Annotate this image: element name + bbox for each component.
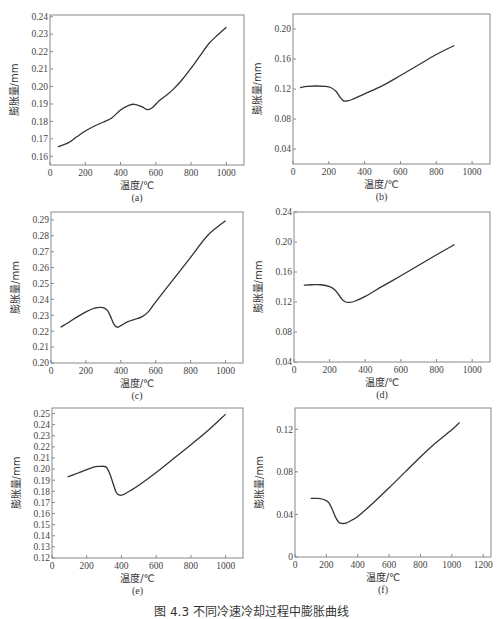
subfigure-label: (c): [131, 390, 142, 402]
x-tick-label: 800: [184, 561, 199, 571]
y-tick-label: 0.08: [276, 467, 293, 477]
dilatation-curve: [61, 221, 226, 328]
x-tick-label: 200: [80, 561, 95, 571]
dilatation-curve: [68, 414, 226, 495]
x-tick-label: 0: [49, 366, 54, 376]
y-tick-label: 0.20: [31, 82, 48, 92]
y-tick-label: 0.12: [33, 553, 50, 563]
y-tick-label: 0.16: [275, 267, 292, 277]
dilatation-curve: [304, 245, 455, 303]
y-tick-label: 0.23: [33, 431, 50, 441]
chart-c: 020040060080010000.200.210.220.230.240.2…: [9, 212, 243, 402]
x-axis-title: 温度/℃: [364, 178, 399, 190]
y-tick-label: 0.14: [33, 531, 50, 541]
x-tick-label: 800: [429, 167, 444, 177]
dilatation-curve: [300, 46, 454, 102]
y-axis-title: 膨胀量/mm: [10, 457, 22, 510]
x-axis-title: 温度/℃: [120, 179, 155, 191]
y-tick-label: 0.29: [32, 215, 49, 225]
x-tick-label: 400: [351, 560, 366, 570]
y-tick-label: 0.25: [33, 409, 50, 419]
plot-frame: [51, 212, 243, 363]
x-tick-label: 400: [358, 167, 373, 177]
y-tick-label: 0.21: [31, 64, 48, 74]
x-tick-label: 1200: [474, 560, 493, 570]
x-tick-label: 0: [48, 168, 53, 178]
x-tick-label: 200: [78, 168, 93, 178]
y-axis-title: 膨胀量/mm: [253, 456, 265, 509]
x-tick-label: 400: [113, 168, 128, 178]
x-tick-label: 400: [358, 365, 373, 375]
y-tick-label: 0.22: [31, 47, 48, 57]
y-tick-label: 0.22: [32, 327, 49, 337]
y-tick-label: 0.19: [31, 99, 48, 109]
x-tick-label: 600: [149, 561, 164, 571]
y-tick-label: 0.20: [274, 24, 291, 34]
x-tick-label: 0: [292, 365, 297, 375]
y-tick-label: 0.21: [33, 453, 50, 463]
y-tick-label: 0.08: [274, 114, 291, 124]
x-tick-label: 1000: [442, 560, 461, 570]
chart-b: 020040060080010000.040.080.120.160.20温度/…: [251, 14, 490, 203]
x-tick-label: 200: [323, 365, 338, 375]
x-tick-label: 600: [394, 365, 409, 375]
x-tick-label: 800: [413, 560, 428, 570]
y-tick-label: 0.28: [32, 231, 49, 241]
y-tick-label: 0.13: [33, 542, 50, 552]
y-axis-title: 膨胀量/mm: [9, 261, 21, 314]
y-tick-label: 0.12: [275, 297, 292, 307]
y-tick-label: 0.16: [31, 152, 48, 162]
y-axis-title: 膨胀量/mm: [252, 261, 264, 314]
y-tick-label: 0.08: [275, 327, 292, 337]
x-tick-label: 0: [50, 561, 55, 571]
chart-a: 020040060080010000.160.170.180.190.200.2…: [8, 12, 244, 204]
chart-d: 020040060080010000.040.080.120.160.200.2…: [252, 207, 490, 401]
y-tick-label: 0.25: [32, 279, 49, 289]
y-tick-label: 0.18: [33, 487, 50, 497]
y-tick-label: 0.19: [33, 476, 50, 486]
x-tick-label: 1000: [463, 167, 482, 177]
y-tick-label: 0.20: [32, 358, 49, 368]
y-axis-title: 膨胀量/mm: [8, 64, 20, 117]
y-tick-label: 0.04: [275, 357, 292, 367]
x-tick-label: 1000: [463, 365, 482, 375]
x-tick-label: 400: [114, 561, 129, 571]
subfigure-label: (a): [131, 192, 142, 204]
y-tick-label: 0.26: [32, 263, 49, 273]
x-tick-label: 200: [319, 560, 334, 570]
y-tick-label: 0.12: [274, 84, 291, 94]
y-tick-label: 0.22: [33, 442, 50, 452]
figure-caption: 图 4.3 不同冷速冷却过程中膨胀曲线: [0, 602, 503, 619]
x-tick-label: 200: [322, 167, 337, 177]
x-axis-title: 温度/℃: [120, 377, 155, 389]
chart-e: 020040060080010000.120.130.140.150.160.1…: [10, 408, 243, 597]
x-tick-label: 400: [114, 366, 129, 376]
dilatation-curve: [311, 422, 460, 523]
y-tick-label: 0.27: [32, 247, 49, 257]
x-tick-label: 1000: [216, 561, 235, 571]
y-tick-label: 0.12: [276, 425, 293, 435]
y-tick-label: 0.24: [32, 295, 49, 305]
subfigure-label: (d): [376, 389, 388, 401]
y-tick-label: 0.17: [31, 134, 48, 144]
y-tick-label: 0.24: [275, 207, 292, 217]
x-tick-label: 600: [149, 168, 164, 178]
plot-frame: [293, 14, 490, 164]
x-axis-title: 温度/℃: [366, 571, 401, 583]
x-tick-label: 800: [429, 365, 444, 375]
plot-frame: [294, 212, 490, 362]
y-tick-label: 0.16: [274, 54, 291, 64]
y-tick-label: 0.21: [32, 342, 49, 352]
plot-frame: [52, 408, 243, 558]
y-tick-label: 0: [288, 552, 293, 562]
x-tick-label: 600: [393, 167, 408, 177]
x-tick-label: 1000: [217, 168, 236, 178]
x-tick-label: 600: [149, 366, 164, 376]
y-tick-label: 0.23: [31, 29, 48, 39]
y-axis-title: 膨胀量/mm: [251, 63, 263, 116]
y-tick-label: 0.15: [33, 520, 50, 530]
x-axis-title: 温度/℃: [365, 376, 400, 388]
subfigure-label: (f): [378, 584, 388, 596]
x-tick-label: 1000: [216, 366, 235, 376]
